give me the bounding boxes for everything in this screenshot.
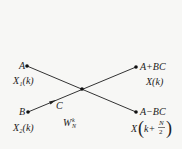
node-b: [26, 110, 30, 114]
label-a-minus-bc: A−BC: [139, 106, 166, 117]
label-x2k: X₂(k): [12, 122, 34, 134]
twiddle-sub: N: [71, 123, 77, 129]
label-x1k: X₁(k): [12, 75, 34, 87]
butterfly-diagram: A X₁(k) B X₂(k) C W k N A+BC X(k) A−BC X…: [0, 0, 182, 149]
node-out-bottom: [134, 110, 138, 114]
xkn2-den: 2: [159, 128, 163, 136]
node-a: [25, 64, 29, 68]
node-out-top: [134, 65, 138, 69]
label-x-k-plus-n-over-2: X ( k+ N 2 ): [130, 118, 172, 139]
xkn2-rparen: ): [166, 118, 172, 139]
arrow-c-icon: [49, 100, 56, 105]
node-center: [80, 87, 84, 91]
xkn2-k: k+: [144, 123, 155, 134]
label-b: B: [19, 106, 25, 117]
xkn2-num: N: [158, 119, 164, 127]
label-xk: X(k): [145, 76, 164, 88]
xkn2-x: X: [130, 123, 138, 134]
label-a: A: [18, 60, 26, 71]
label-a-plus-bc: A+BC: [139, 61, 166, 72]
label-c: C: [56, 100, 63, 111]
